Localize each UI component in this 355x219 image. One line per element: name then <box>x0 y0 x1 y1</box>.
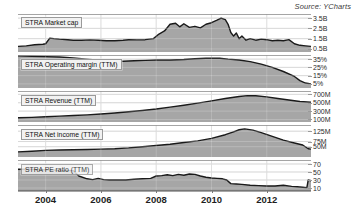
y-tick-operating-margin-3: 5% <box>313 80 323 87</box>
y-tick-mark <box>308 59 312 60</box>
x-tick-mark <box>156 190 157 193</box>
y-tick-operating-margin-2: 15% <box>313 72 327 79</box>
y-tick-mark <box>308 67 312 68</box>
y-tick-market-cap-0: 3.5B <box>313 15 327 22</box>
y-tick-revenue-1: 500M <box>313 99 331 106</box>
panel-net-income[interactable]: STRA Net income (TTM) <box>18 125 311 157</box>
y-tick-market-cap-1: 2.5B <box>313 25 327 32</box>
x-tick-2004: 2004 <box>35 194 56 205</box>
x-tick-mark <box>101 190 102 193</box>
source-attribution: Source: YCharts <box>295 2 351 11</box>
panel-revenue[interactable]: STRA Revenue (TTM) <box>18 91 311 122</box>
series-label-pe-ratio[interactable]: STRA PE ratio (TTM) <box>21 164 93 175</box>
series-label-revenue[interactable]: STRA Revenue (TTM) <box>21 95 96 106</box>
x-axis: 20042006200820102012 <box>18 190 311 216</box>
y-tick-revenue-3: 100M <box>313 116 331 123</box>
y-tick-mark <box>308 28 312 29</box>
y-tick-operating-margin-0: 35% <box>313 56 327 63</box>
y-tick-pe-ratio-1: 50 <box>313 169 321 176</box>
x-tick-2010: 2010 <box>201 194 222 205</box>
y-tick-mark <box>308 119 312 120</box>
series-label-net-income[interactable]: STRA Net income (TTM) <box>21 129 103 140</box>
y-tick-mark <box>308 164 312 165</box>
x-tick-mark <box>46 190 47 193</box>
y-tick-pe-ratio-3: 10 <box>313 185 321 192</box>
y-tick-mark <box>308 180 312 181</box>
y-tick-mark <box>308 103 312 104</box>
y-tick-mark <box>308 49 312 50</box>
y-tick-revenue-2: 300M <box>313 108 331 115</box>
y-tick-market-cap-2: 1.5B <box>313 35 327 42</box>
y-tick-mark <box>308 172 312 173</box>
x-tick-mark <box>267 190 268 193</box>
y-tick-mark <box>308 131 312 132</box>
y-tick-mark <box>308 76 312 77</box>
y-tick-mark <box>308 18 312 19</box>
y-tick-market-cap-3: 0.5B <box>313 45 327 52</box>
y-tick-mark <box>308 94 312 95</box>
y-tick-mark <box>308 111 312 112</box>
x-tick-2012: 2012 <box>256 194 277 205</box>
y-tick-revenue-0: 700M <box>313 91 331 98</box>
y-tick-pe-ratio-0: 70 <box>313 161 321 168</box>
x-tick-2008: 2008 <box>146 194 167 205</box>
y-tick-mark <box>308 147 312 148</box>
panel-pe-ratio[interactable]: STRA PE ratio (TTM) <box>18 160 311 192</box>
x-tick-2006: 2006 <box>90 194 111 205</box>
x-tick-mark <box>212 190 213 193</box>
series-label-market-cap[interactable]: STRA Market cap <box>21 17 82 28</box>
y-tick-mark <box>308 142 312 143</box>
panel-operating-margin[interactable]: STRA Operating margin (TTM) <box>18 55 311 88</box>
y-tick-mark <box>308 39 312 40</box>
series-label-operating-margin[interactable]: STRA Operating margin (TTM) <box>21 59 122 70</box>
y-tick-net-income-2: 50M <box>313 143 327 150</box>
y-tick-operating-margin-1: 25% <box>313 64 327 71</box>
chart-root: Source: YCharts STRA Market capSTRA Oper… <box>0 0 355 219</box>
y-tick-net-income-0: 125M <box>313 128 331 135</box>
y-tick-mark <box>308 188 312 189</box>
y-tick-pe-ratio-2: 30 <box>313 177 321 184</box>
y-tick-mark <box>308 84 312 85</box>
panel-market-cap[interactable]: STRA Market cap <box>18 14 311 52</box>
